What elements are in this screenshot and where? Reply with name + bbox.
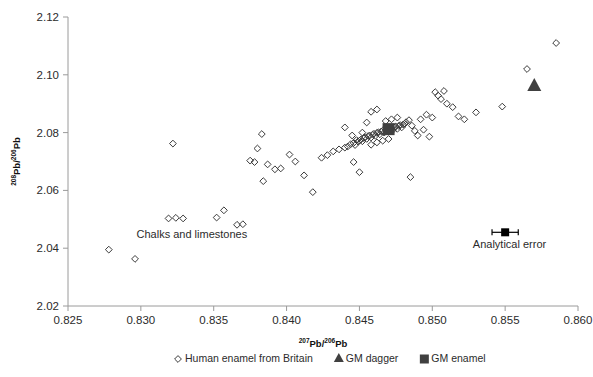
data-point-human-enamel [341, 124, 348, 131]
x-tick-label: 0.840 [272, 314, 301, 326]
data-point-human-enamel [426, 133, 433, 140]
error-bar-marker [501, 228, 509, 236]
chart-canvas: 2.022.042.062.082.102.120.8250.8300.8350… [0, 0, 593, 377]
data-point-human-enamel [292, 158, 299, 165]
data-point-human-enamel [350, 159, 357, 166]
data-point-human-enamel [407, 174, 414, 181]
data-point-gm-dagger [527, 78, 541, 91]
data-point-human-enamel [272, 166, 279, 173]
data-point-human-enamel [449, 104, 456, 111]
data-point-human-enamel [260, 178, 267, 185]
data-point-human-enamel [420, 126, 427, 133]
data-point-human-enamel [441, 88, 448, 95]
legend-label: GM enamel [431, 352, 485, 364]
legend-marker-gm-dagger [334, 353, 344, 362]
x-axis-title: 207Pb/206Pb [299, 337, 348, 349]
data-point-human-enamel [258, 131, 265, 138]
data-point-human-enamel [254, 145, 261, 152]
y-tick-label: 2.12 [37, 11, 59, 23]
x-tick-label: 0.830 [126, 314, 155, 326]
data-point-human-enamel [349, 132, 356, 139]
data-point-human-enamel [105, 246, 112, 253]
y-tick-label: 2.06 [37, 184, 59, 196]
data-point-human-enamel [553, 40, 560, 47]
y-tick-label: 2.04 [37, 242, 60, 254]
legend-marker-human-enamel [175, 356, 182, 363]
data-point-human-enamel [309, 189, 316, 196]
data-point-human-enamel [180, 215, 187, 222]
data-point-gm-enamel [383, 123, 395, 135]
legend-marker-gm-enamel [420, 355, 429, 364]
legend-label: Human enamel from Britain [185, 352, 313, 364]
data-point-human-enamel [301, 172, 308, 179]
x-tick-label: 0.845 [345, 314, 374, 326]
data-point-human-enamel [277, 165, 284, 172]
data-point-human-enamel [170, 140, 177, 147]
data-point-human-enamel [213, 214, 220, 221]
legend-label: GM dagger [346, 352, 399, 364]
data-point-human-enamel [132, 255, 139, 262]
data-point-human-enamel [473, 109, 480, 116]
data-point-human-enamel [172, 214, 179, 221]
data-point-human-enamel [221, 207, 228, 214]
x-tick-label: 0.860 [564, 314, 593, 326]
y-tick-label: 2.08 [37, 127, 59, 139]
x-tick-label: 0.835 [199, 314, 228, 326]
y-tick-label: 2.02 [37, 300, 59, 312]
data-point-human-enamel [356, 169, 363, 176]
data-point-human-enamel [264, 161, 271, 168]
data-point-human-enamel [363, 119, 370, 126]
x-tick-label: 0.825 [54, 314, 83, 326]
y-axis-title: 208Pb/206Pb [10, 137, 22, 186]
data-point-human-enamel [443, 100, 450, 107]
scatter-chart: 2.022.042.062.082.102.120.8250.8300.8350… [0, 0, 593, 377]
data-point-human-enamel [417, 116, 424, 123]
x-tick-label: 0.855 [491, 314, 520, 326]
x-tick-label: 0.850 [418, 314, 447, 326]
data-point-human-enamel [286, 151, 293, 158]
annotation-analytical-error: Analytical error [473, 238, 547, 250]
data-point-human-enamel [524, 66, 531, 73]
data-point-human-enamel [165, 215, 172, 222]
data-point-human-enamel [499, 103, 506, 110]
annotation-chalks-and-limestones: Chalks and limestones [137, 228, 248, 240]
y-tick-label: 2.10 [37, 69, 59, 81]
